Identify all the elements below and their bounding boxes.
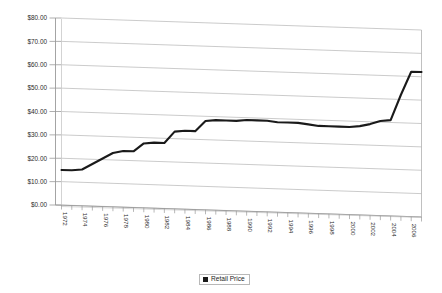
- x-axis-tick-label: 1988: [226, 217, 233, 231]
- legend-swatch-icon: [203, 277, 208, 282]
- x-axis-tick-label: 1984: [185, 216, 192, 230]
- x-axis-tick-label: 1994: [288, 220, 295, 234]
- y-axis-tick-label: $40.00: [27, 108, 47, 115]
- gridline: [62, 135, 422, 147]
- chart-container: $0.00$10.00$20.00$30.00$40.00$50.00$60.0…: [0, 0, 442, 293]
- chart-legend: Retail Price: [199, 274, 250, 285]
- y-axis-tick-labels: $0.00$10.00$20.00$30.00$40.00$50.00$60.0…: [27, 14, 47, 208]
- x-axis-tick-label: 1986: [206, 217, 213, 231]
- data-series-group: [62, 72, 422, 171]
- x-axis-tick-label: 1974: [82, 213, 89, 227]
- y-axis-tick-label: $50.00: [27, 84, 47, 91]
- y-axis-tick-label: $30.00: [27, 131, 47, 138]
- series-line-retail-price: [62, 72, 422, 171]
- x-axis-tick-label: 1972: [62, 212, 69, 226]
- legend-label: Retail Price: [211, 276, 245, 283]
- y-axis-tick-label: $60.00: [27, 61, 47, 68]
- horizontal-gridlines: [50, 18, 422, 217]
- gridline: [62, 112, 422, 124]
- y-axis-tick-label: $70.00: [27, 38, 47, 45]
- x-axis-tick-label: 1976: [103, 213, 110, 227]
- gridline: [62, 182, 422, 194]
- x-axis-tick-label: 2002: [370, 222, 377, 236]
- x-axis-tick-label: 1980: [144, 215, 151, 229]
- x-axis-tick-label: 1982: [164, 215, 171, 229]
- gridline: [62, 18, 422, 30]
- y-axis-lines: [56, 18, 62, 206]
- x-axis-tick-label: 1990: [247, 218, 254, 232]
- y-axis-tick-label: $0.00: [31, 201, 47, 208]
- x-axis-tick-label: 1978: [123, 214, 130, 228]
- y-axis-tick-label: $10.00: [27, 178, 47, 185]
- gridline: [62, 65, 422, 77]
- x-axis-tick-label: 1996: [308, 220, 315, 234]
- y-axis-tick-label: $80.00: [27, 14, 47, 21]
- x-axis-tick-label: 2004: [391, 223, 398, 237]
- gridline: [62, 88, 422, 100]
- y-axis-tick-label: $20.00: [27, 155, 47, 162]
- x-axis-tick-label: 1992: [267, 219, 274, 233]
- line-chart-plot: $0.00$10.00$20.00$30.00$40.00$50.00$60.0…: [0, 0, 442, 293]
- x-axis-tick-marks: [62, 205, 422, 222]
- x-axis-tick-label: 2000: [350, 222, 357, 236]
- gridline: [62, 41, 422, 53]
- gridline: [62, 158, 422, 170]
- x-axis-tick-label: 2006: [411, 224, 418, 238]
- x-axis-tick-label: 1998: [329, 221, 336, 235]
